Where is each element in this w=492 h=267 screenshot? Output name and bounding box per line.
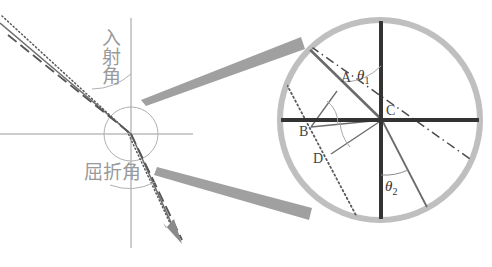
theta2-subscript: 2: [392, 186, 397, 197]
refracted-arrowhead: [163, 219, 182, 244]
magnifier-cone: [141, 37, 312, 220]
left-diagram: [0, 16, 193, 248]
inset-dashdot-line: [296, 36, 480, 166]
figure-canvas: 入射角 屈折角 A B C D θ1 θ2: [0, 0, 492, 267]
inset-theta2-arc: [381, 170, 408, 175]
label-refraction-angle: 屈折角: [84, 163, 141, 182]
inset-diagram: [278, 18, 482, 222]
label-incidence-angle: 入射角: [100, 28, 120, 85]
angle-label-theta2: θ2: [385, 178, 397, 197]
inset-wavefront-cd: [331, 120, 382, 154]
point-label-b: B: [299, 124, 308, 140]
point-label-c: C: [386, 103, 395, 119]
inset-angle-arc-c: [340, 122, 350, 147]
point-label-a: A: [341, 70, 351, 86]
diagram-svg: [0, 0, 492, 267]
angle-label-theta1: θ1: [357, 67, 369, 86]
inset-refracted-ray: [382, 120, 430, 213]
theta1-subscript: 1: [364, 75, 369, 86]
point-label-d: D: [313, 151, 323, 167]
cone-lower-edge: [154, 167, 312, 220]
